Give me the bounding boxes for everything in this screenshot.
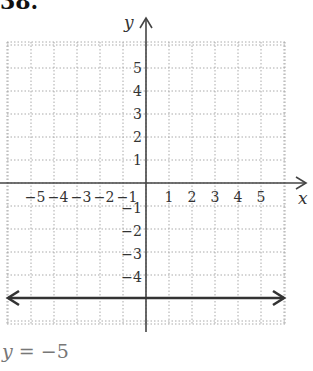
- caption-equals: =: [19, 340, 35, 362]
- caption-variable: y: [2, 340, 13, 362]
- svg-text:−5: −5: [25, 189, 46, 205]
- svg-text:4: 4: [133, 83, 142, 99]
- tick-labels: −5−4−3−2−11234554321−1−2−3−4: [25, 60, 266, 285]
- svg-text:2: 2: [188, 189, 197, 205]
- svg-text:2: 2: [133, 129, 142, 145]
- svg-text:−3: −3: [71, 189, 92, 205]
- equation-caption: y = −5: [2, 340, 69, 362]
- caption-value: −5: [41, 340, 69, 362]
- svg-text:5: 5: [257, 189, 266, 205]
- svg-text:3: 3: [133, 106, 142, 122]
- svg-text:1: 1: [133, 152, 142, 168]
- svg-text:4: 4: [234, 189, 243, 205]
- axes: xy: [0, 12, 308, 332]
- svg-text:−4: −4: [121, 269, 142, 285]
- svg-text:−1: −1: [121, 200, 142, 216]
- svg-text:−3: −3: [121, 246, 142, 262]
- svg-text:y: y: [123, 12, 134, 32]
- svg-text:5: 5: [133, 60, 142, 76]
- svg-text:−2: −2: [121, 223, 142, 239]
- svg-text:−4: −4: [48, 189, 69, 205]
- svg-text:1: 1: [165, 189, 174, 205]
- svg-text:−2: −2: [94, 189, 115, 205]
- coordinate-plane: xy −5−4−3−2−11234554321−1−2−3−4: [0, 0, 313, 371]
- svg-text:x: x: [298, 188, 308, 208]
- svg-text:3: 3: [211, 189, 220, 205]
